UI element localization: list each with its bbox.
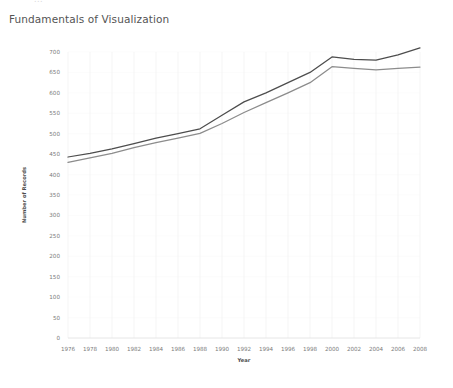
y-tick-label: 500 <box>49 131 60 137</box>
y-tick-label: 700 <box>49 49 60 55</box>
y-tick-label: 50 <box>53 315 61 321</box>
x-tick-label: 1986 <box>171 346 186 352</box>
x-tick-label: 1994 <box>259 346 274 352</box>
x-tick-label: 1980 <box>105 346 120 352</box>
x-tick-label: 1976 <box>61 346 76 352</box>
x-axis-tick-labels: 1976197819801982198419861988199019921994… <box>61 346 428 352</box>
y-tick-label: 350 <box>49 192 60 198</box>
x-tick-label: 2008 <box>413 346 428 352</box>
x-tick-label: 1978 <box>83 346 98 352</box>
y-axis-tick-labels: 0501001502002503003504004505005506006507… <box>49 49 60 341</box>
y-tick-label: 550 <box>49 110 60 116</box>
y-axis-title: Number of Records <box>21 167 27 223</box>
y-tick-label: 450 <box>49 151 60 157</box>
y-tick-label: 200 <box>49 253 60 259</box>
x-tick-label: 1992 <box>237 346 251 352</box>
y-tick-label: 0 <box>56 335 60 341</box>
y-tick-label: 600 <box>49 90 60 96</box>
x-tick-label: 1982 <box>127 346 141 352</box>
visualization-root: ... Fundamentals of Visualization 050100… <box>0 0 453 388</box>
y-tick-label: 650 <box>49 69 60 75</box>
y-tick-label: 150 <box>49 274 60 280</box>
line-chart[interactable]: 0501001502002503003504004505005506006507… <box>0 0 453 388</box>
y-tick-label: 250 <box>49 233 60 239</box>
y-tick-label: 300 <box>49 212 60 218</box>
x-tick-label: 1996 <box>281 346 296 352</box>
x-tick-label: 1998 <box>303 346 318 352</box>
x-tick-label: 2004 <box>369 346 384 352</box>
x-tick-label: 1988 <box>193 346 208 352</box>
x-tick-label: 2000 <box>325 346 340 352</box>
y-tick-label: 400 <box>49 172 60 178</box>
x-tick-label: 2006 <box>391 346 406 352</box>
y-tick-label: 100 <box>49 294 60 300</box>
x-tick-label: 2002 <box>347 346 361 352</box>
x-tick-label: 1990 <box>215 346 230 352</box>
x-tick-label: 1984 <box>149 346 164 352</box>
x-axis-title: Year <box>237 357 251 363</box>
